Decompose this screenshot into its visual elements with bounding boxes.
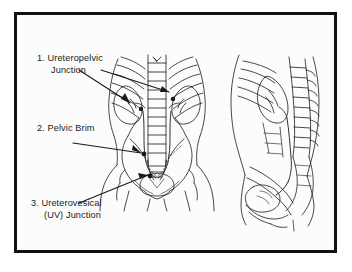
illustration-root: 1. UreteropelvicJunction 2. Pelvic Brim … xyxy=(0,0,352,272)
annotation-label-pelvic-brim: 2. Pelvic Brim xyxy=(37,123,95,135)
annotation-1-line-1: 1. Ureteropelvic xyxy=(37,53,103,63)
annotation-1-line-2: Junction xyxy=(37,65,103,77)
annotation-label-ureterovesical-junction: 3. Ureterovesical(UV) Junction xyxy=(31,198,102,221)
figure-frame: 1. UreteropelvicJunction 2. Pelvic Brim … xyxy=(14,12,337,253)
annotation-3-line-2: (UV) Junction xyxy=(31,210,102,222)
annotation-3-line-1: 3. Ureterovesical xyxy=(31,198,102,208)
annotation-label-ureteropelvic-junction: 1. UreteropelvicJunction xyxy=(37,53,103,76)
lateral-sagittal-view xyxy=(231,55,319,231)
arrow-heads xyxy=(121,86,169,179)
annotation-2-line-1: 2. Pelvic Brim xyxy=(37,123,95,133)
